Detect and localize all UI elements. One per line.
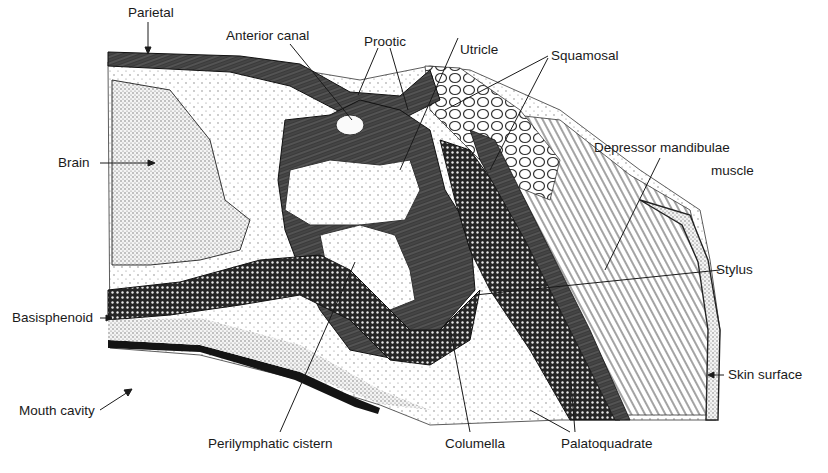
label-perilymphatic-cistern: Perilymphatic cistern: [208, 437, 333, 451]
label-prootic: Prootic: [364, 35, 406, 49]
section-illustration: [0, 0, 828, 473]
label-depressor-muscle: muscle: [711, 164, 754, 178]
label-anterior-canal: Anterior canal: [226, 29, 309, 43]
label-mouth-cavity: Mouth cavity: [19, 404, 95, 418]
anatomical-figure: Parietal Anterior canal Prootic Utricle …: [0, 0, 828, 473]
label-columella: Columella: [445, 437, 505, 451]
label-parietal: Parietal: [128, 6, 174, 20]
label-squamosal: Squamosal: [551, 49, 619, 63]
label-stylus: Stylus: [716, 263, 753, 277]
label-utricle: Utricle: [460, 43, 498, 57]
label-depressor-mandibulae: Depressor mandibulae: [594, 141, 730, 155]
label-palatoquadrate: Palatoquadrate: [561, 437, 653, 451]
label-basisphenoid: Basisphenoid: [12, 311, 93, 325]
label-skin-surface: Skin surface: [728, 368, 802, 382]
label-brain: Brain: [58, 156, 90, 170]
